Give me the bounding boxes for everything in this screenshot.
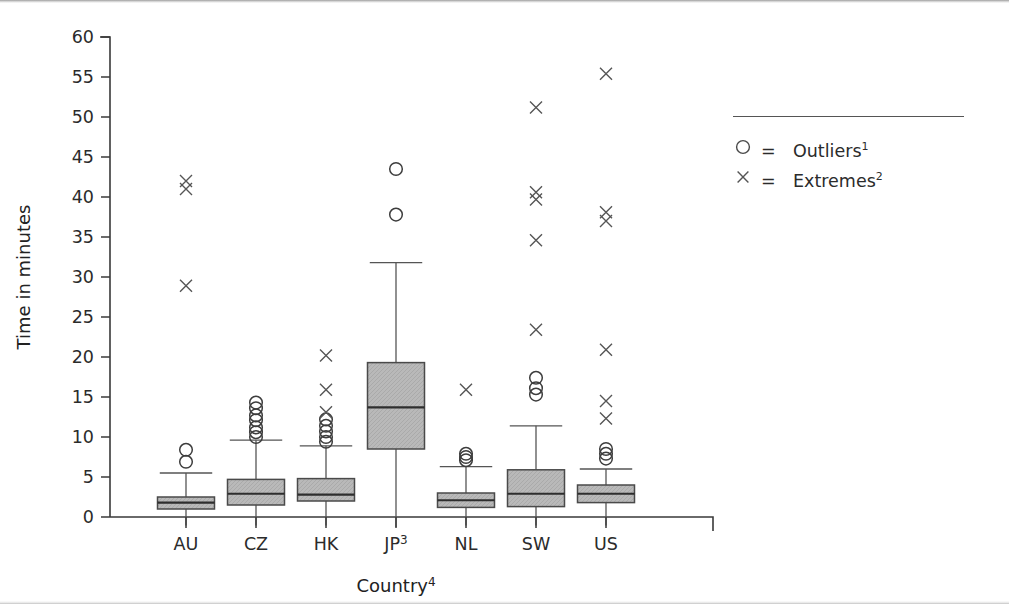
box-group-AU: AU (158, 175, 215, 554)
extreme-US-0 (600, 413, 612, 425)
extreme-US-5 (600, 68, 612, 80)
extreme-SW-4 (530, 101, 542, 113)
x-tick-label-US: US (594, 534, 618, 554)
x-axis-line (110, 517, 713, 531)
y-tick-label-35: 35 (72, 227, 94, 247)
legend-row-outliers: = Outliers1 (733, 136, 973, 166)
y-tick-label-15: 15 (72, 387, 94, 407)
y-tick-label-55: 55 (72, 67, 94, 87)
extreme-AU-0 (180, 280, 192, 292)
extreme-AU-2 (180, 175, 192, 187)
y-tick-label-25: 25 (72, 307, 94, 327)
legend-footnote-extremes: 2 (876, 170, 883, 183)
legend-row-extremes: = Extremes2 (733, 166, 973, 196)
box-HK (298, 479, 355, 501)
cross-glyph (733, 166, 759, 188)
extreme-HK-1 (320, 384, 332, 396)
y-tick-label-50: 50 (72, 107, 94, 127)
y-tick-label-30: 30 (72, 267, 94, 287)
x-axis-title: Country4 (356, 575, 435, 596)
x-tick-label-HK: HK (314, 534, 339, 554)
x-tick-label-SW: SW (522, 534, 550, 554)
legend-equals-extremes: = (759, 171, 793, 191)
legend-divider (733, 116, 964, 117)
box-group-SW: SW (508, 101, 565, 554)
legend-text-outliers: Outliers (793, 141, 862, 161)
extreme-HK-0 (320, 406, 332, 418)
box-group-NL: NL (438, 384, 495, 554)
extreme-SW-1 (530, 234, 542, 246)
extreme-US-2 (600, 344, 612, 356)
y-tick-label-45: 45 (72, 147, 94, 167)
legend-text-extremes: Extremes (793, 171, 876, 191)
outlier-JP-1 (390, 163, 403, 176)
y-tick-label-40: 40 (72, 187, 94, 207)
box-SW (508, 470, 565, 507)
legend-equals-outliers: = (759, 141, 793, 161)
extreme-NL-0 (460, 384, 472, 396)
outlier-JP-0 (390, 208, 403, 221)
x-tick-label-AU: AU (174, 534, 199, 554)
extreme-SW-2 (530, 193, 542, 205)
outlier-NL-1 (460, 451, 473, 464)
box-group-JP: JP3 (368, 163, 425, 554)
outlier-AU-1 (180, 444, 193, 457)
x-tick-label-NL: NL (455, 534, 478, 554)
y-axis-title: Time in minutes (13, 205, 34, 351)
outlier-AU-0 (180, 456, 193, 469)
y-tick-label-5: 5 (83, 467, 94, 487)
box-group-CZ: CZ (228, 396, 285, 554)
legend: = Outliers1 = Extremes2 (733, 116, 973, 196)
legend-label-outliers: Outliers1 (793, 140, 869, 161)
y-tick-label-10: 10 (72, 427, 94, 447)
chart-page: 605550454035302520151050Time in minutesA… (0, 0, 1009, 604)
y-tick-label-0: 0 (83, 507, 94, 527)
box-JP (368, 363, 425, 449)
extreme-US-4 (600, 206, 612, 218)
box-group-US: US (578, 68, 635, 554)
legend-label-extremes: Extremes2 (793, 170, 883, 191)
x-tick-label-CZ: CZ (244, 534, 268, 554)
box-plot-chart: 605550454035302520151050Time in minutesA… (0, 0, 1009, 604)
box-group-HK: HK (298, 349, 355, 554)
extreme-HK-2 (320, 349, 332, 361)
x-tick-label-JP: JP3 (383, 533, 407, 554)
y-tick-label-60: 60 (72, 27, 94, 47)
box-CZ (228, 479, 285, 505)
extreme-SW-0 (530, 324, 542, 336)
y-tick-label-20: 20 (72, 347, 94, 367)
extreme-US-1 (600, 395, 612, 407)
legend-footnote-outliers: 1 (862, 140, 869, 153)
extreme-SW-3 (530, 186, 542, 198)
circle-glyph (733, 136, 759, 158)
